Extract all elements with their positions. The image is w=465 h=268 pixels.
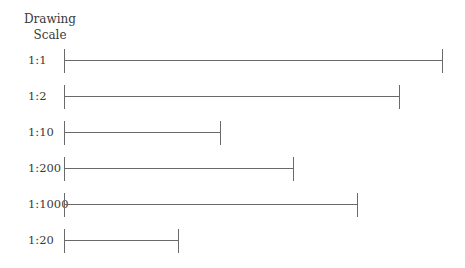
scale-row-1-200: 1:200 xyxy=(0,157,465,181)
bar-line xyxy=(64,204,358,205)
bar-line xyxy=(64,132,221,133)
column-header: Drawing Scale xyxy=(14,11,86,43)
scale-row-1-20: 1:20 xyxy=(0,229,465,253)
bar-start-tick xyxy=(64,49,65,73)
scale-bar xyxy=(64,229,179,253)
scale-row-1-1: 1:1 xyxy=(0,49,465,73)
bar-line xyxy=(64,240,179,241)
scale-bar xyxy=(64,49,443,73)
bar-end-tick xyxy=(442,49,443,73)
scale-label: 1:1 xyxy=(28,53,47,67)
scale-row-1-10: 1:10 xyxy=(0,121,465,145)
bar-start-tick xyxy=(64,121,65,145)
bar-start-tick xyxy=(64,157,65,181)
scale-label: 1:2 xyxy=(28,89,47,103)
scale-label: 1:10 xyxy=(28,125,54,139)
scale-label: 1:200 xyxy=(28,161,61,175)
scale-label: 1:20 xyxy=(28,233,54,247)
bar-end-tick xyxy=(399,85,400,109)
bar-line xyxy=(64,60,443,61)
scale-bar xyxy=(64,85,400,109)
bar-start-tick xyxy=(64,85,65,109)
bar-end-tick xyxy=(178,229,179,253)
bar-end-tick xyxy=(293,157,294,181)
header-line-scale: Scale xyxy=(14,27,86,43)
scale-bar xyxy=(64,193,358,217)
bar-line xyxy=(64,96,400,97)
scale-row-1-2: 1:2 xyxy=(0,85,465,109)
bar-end-tick xyxy=(220,121,221,145)
scale-bar xyxy=(64,157,294,181)
scale-row-1-1000: 1:1000 xyxy=(0,193,465,217)
scale-label: 1:1000 xyxy=(28,197,68,211)
bar-start-tick xyxy=(64,193,65,217)
bar-start-tick xyxy=(64,229,65,253)
header-line-drawing: Drawing xyxy=(14,11,86,27)
scale-bar xyxy=(64,121,221,145)
bar-end-tick xyxy=(357,193,358,217)
bar-line xyxy=(64,168,294,169)
